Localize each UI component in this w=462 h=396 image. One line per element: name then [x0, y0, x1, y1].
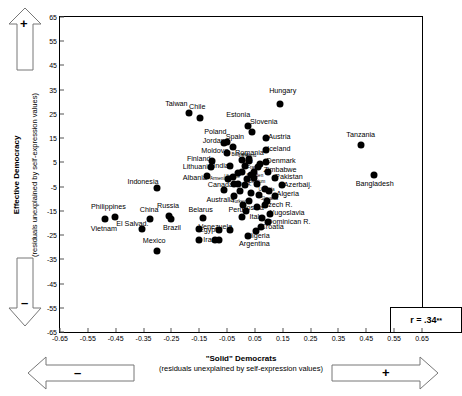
data-point-label: Jordan: [203, 137, 225, 144]
x-axis-tick-label: -0.35: [136, 335, 152, 342]
y-axis-tick-mark: [60, 307, 64, 308]
x-axis-tick-mark: [115, 328, 116, 332]
data-point-label: India: [213, 162, 229, 169]
data-point: [255, 192, 262, 199]
x-axis-tick-mark: [394, 328, 395, 332]
y-axis-tick-mark: [60, 283, 64, 284]
data-point: [357, 142, 364, 149]
data-point-label: Yugoslavia: [270, 210, 305, 217]
data-point-label: Chile: [189, 103, 205, 110]
data-point: [257, 160, 264, 167]
correlation-annotation-box: r = .34**: [390, 307, 462, 333]
data-point-label: Belarus: [188, 206, 212, 213]
data-point-label: Finland: [187, 155, 211, 162]
x-axis-tick-mark: [87, 328, 88, 332]
data-point-label: Ireland: [242, 154, 256, 159]
data-point-label: Poland: [204, 128, 226, 135]
x-axis-title-main: "Solid" Democrats: [59, 354, 423, 363]
data-point-label: Estonia: [226, 112, 250, 119]
x-axis-tick-mark: [227, 328, 228, 332]
data-point-label: Vietnam: [91, 225, 117, 232]
x-axis-tick-label: 0.25: [304, 335, 318, 342]
data-point-label: Argentina: [239, 240, 270, 247]
y-axis-tick-label: -55: [47, 304, 57, 311]
x-axis-title-sub: (residuals unexplained by self-expressio…: [59, 364, 423, 373]
y-axis-tick-mark: [60, 259, 64, 260]
data-point: [276, 101, 283, 108]
y-axis-tick-mark: [60, 113, 64, 114]
data-point: [221, 187, 228, 194]
data-point: [239, 213, 246, 220]
data-point-label: Japan: [240, 160, 253, 165]
data-point: [200, 215, 207, 222]
y-axis-tick-mark: [60, 235, 64, 236]
y-axis-tick-label: 65: [49, 14, 57, 21]
x-axis-tick-mark: [422, 328, 423, 332]
data-point-label: Algeria: [277, 190, 299, 197]
y-axis-tick-mark: [60, 186, 64, 187]
data-point-label: Hungary: [269, 87, 296, 94]
y-axis-tick-label: 45: [49, 62, 57, 69]
data-point-label: Czech R.: [263, 201, 293, 208]
x-axis-tick-label: -0.65: [52, 335, 68, 342]
data-point: [212, 236, 219, 243]
y-axis-tick-label: 25: [49, 110, 57, 117]
y-axis-tick-label: 35: [49, 86, 57, 93]
data-point-label: Taiwan: [165, 101, 187, 108]
y-axis-tick-mark: [60, 41, 64, 42]
x-axis-tick-mark: [199, 328, 200, 332]
data-point: [234, 170, 241, 177]
x-axis-tick-label: 0.65: [415, 335, 429, 342]
data-point-label: Azerbaij.: [284, 182, 312, 189]
x-axis-tick-mark: [282, 328, 283, 332]
significance-stars: **: [436, 317, 441, 324]
x-axis-tick-label: -0.15: [191, 335, 207, 342]
x-axis-tick-label: 0.05: [248, 335, 262, 342]
data-point: [246, 198, 253, 205]
x-axis-tick-mark: [310, 328, 311, 332]
y-axis-tick-mark: [60, 89, 64, 90]
x-axis-title: "Solid" Democrats (residuals unexplained…: [59, 354, 423, 373]
data-point: [248, 189, 255, 196]
y-axis-title-sub: (residuals unexplained by self-expressio…: [30, 93, 39, 257]
data-point-label: Australia: [206, 196, 234, 203]
x-axis-tick-label: 0.55: [387, 335, 401, 342]
y-axis-tick-label: -45: [47, 280, 57, 287]
y-axis-title: Effective Democracy (residuals unexplain…: [14, 16, 32, 333]
data-point-label: Brazil: [163, 224, 181, 231]
data-point: [249, 129, 256, 136]
data-point: [101, 216, 108, 223]
x-axis-tick-label: -0.55: [80, 335, 96, 342]
data-point-label: El Salvad.: [116, 221, 148, 228]
data-point-label: Italy: [249, 213, 262, 220]
data-point-label: Lithuania: [183, 164, 212, 171]
x-axis-tick-mark: [338, 328, 339, 332]
data-point: [154, 247, 161, 254]
data-point: [196, 236, 203, 243]
x-axis-tick-mark: [366, 328, 367, 332]
y-axis-tick-label: -35: [47, 256, 57, 263]
data-point-label: Bangladesh: [356, 181, 394, 188]
data-point-label: Philippines: [91, 204, 126, 211]
correlation-value: r = .34: [410, 315, 436, 325]
data-point: [265, 188, 272, 195]
data-point-label: Russia: [157, 202, 179, 209]
x-axis-tick-mark: [254, 328, 255, 332]
y-axis-tick-mark: [60, 210, 64, 211]
data-point-label: Mexico: [143, 238, 166, 245]
data-point: [235, 181, 242, 188]
data-point: [236, 188, 243, 195]
y-axis-title-main: Effective Democracy: [12, 135, 21, 214]
data-point-label: Iceland: [267, 145, 290, 152]
x-axis-tick-label: -0.45: [108, 335, 124, 342]
y-axis-tick-label: 55: [49, 38, 57, 45]
data-point-label: Austria: [268, 133, 290, 140]
data-point: [195, 226, 202, 233]
y-axis-tick-mark: [60, 162, 64, 163]
y-axis-tick-label: -15: [47, 207, 57, 214]
x-axis-tick-mark: [60, 328, 61, 332]
y-axis-tick-label: 5: [53, 159, 57, 166]
data-point: [243, 176, 250, 183]
data-point-label: China: [140, 206, 159, 213]
